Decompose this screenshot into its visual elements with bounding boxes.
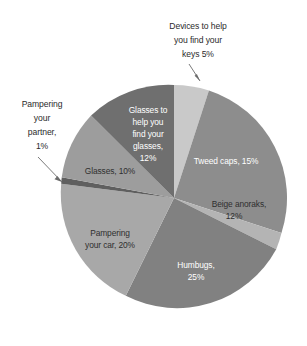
pie-slices xyxy=(61,85,287,308)
callout-devices-keys: Devices to help you find your keys 5% xyxy=(169,21,227,81)
slice-label-pampering-car-line1: Pampering xyxy=(90,228,130,238)
callout-partner-arrowhead-icon xyxy=(55,176,63,182)
callout-keys-line3: keys 5% xyxy=(182,49,214,59)
slice-label-find-glasses-line1: Glasses to xyxy=(129,105,168,115)
callout-partner-line3: partner, xyxy=(28,127,56,137)
callout-keys-line1: Devices to help xyxy=(169,21,227,31)
callout-partner-line2: your xyxy=(34,113,51,123)
slice-label-find-glasses-line2: help you xyxy=(133,117,164,127)
callout-pampering-partner: Pampering your partner, 1% xyxy=(22,99,63,182)
slice-label-humbugs-line1: Humbugs, xyxy=(177,260,214,270)
slice-label-humbugs-line2: 25% xyxy=(188,272,205,282)
slice-label-pampering-car-line2: your car, 20% xyxy=(85,240,136,250)
callout-keys-arrowhead-icon xyxy=(195,74,200,81)
callout-keys-line2: you find your xyxy=(174,35,222,45)
callout-partner-line1: Pampering xyxy=(22,99,63,109)
slice-label-find-glasses-line4: glasses, xyxy=(133,141,163,151)
slice-label-find-glasses-line5: 12% xyxy=(140,153,157,163)
slice-label-beige-anoraks-line2: 12% xyxy=(226,211,243,221)
pie-chart-svg: Tweed caps, 15% Beige anoraks, 12% Humbu… xyxy=(0,0,307,346)
callout-partner-line4: 1% xyxy=(36,141,49,151)
pie-chart-figure: Tweed caps, 15% Beige anoraks, 12% Humbu… xyxy=(0,0,307,346)
slice-label-tweed-caps: Tweed caps, 15% xyxy=(194,156,259,166)
slice-label-glasses: Glasses, 10% xyxy=(85,166,136,176)
slice-label-find-glasses-line3: find your xyxy=(132,129,164,139)
slice-label-beige-anoraks-line1: Beige anoraks, xyxy=(212,199,266,209)
